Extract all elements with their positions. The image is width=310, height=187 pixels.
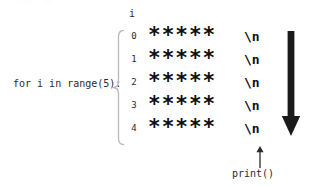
row-index-value: 4 xyxy=(129,123,139,133)
row-index-value: 3 xyxy=(129,100,139,110)
row-newline-marker: \n xyxy=(244,98,260,113)
diagram-canvas: for i in for i in range(5): i 0 ***** \n… xyxy=(0,0,310,187)
table-row: 4 ***** \n xyxy=(0,119,310,142)
row-star-output: ***** xyxy=(148,115,216,139)
row-index-value: 2 xyxy=(129,77,139,87)
row-star-output: ***** xyxy=(148,46,216,70)
row-newline-marker: \n xyxy=(244,29,260,44)
row-newline-marker: \n xyxy=(244,75,260,90)
row-star-output: ***** xyxy=(148,92,216,116)
row-newline-marker: \n xyxy=(244,52,260,67)
row-newline-marker: \n xyxy=(244,121,260,136)
print-call-label: print() xyxy=(232,168,274,179)
arrow-up-icon xyxy=(254,145,266,169)
row-star-output: ***** xyxy=(148,23,216,47)
row-star-output: ***** xyxy=(148,69,216,93)
row-index-value: 1 xyxy=(129,54,139,64)
index-column-header: i xyxy=(129,8,135,19)
arrow-down-icon xyxy=(281,31,301,137)
row-index-value: 0 xyxy=(129,31,139,41)
ghost-remnant-text: for i in xyxy=(18,0,88,5)
iteration-row-list: 0 ***** \n 1 ***** \n 2 ***** \n 3 *****… xyxy=(0,27,310,142)
